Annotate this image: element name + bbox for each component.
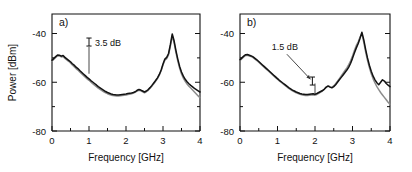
b-yticklabel: -80 [220,126,234,137]
a-yticklabel: -80 [32,126,46,137]
a-xticklabel: 1 [86,135,91,146]
panel-b: 1.5 dB 01234-40-60-80b)Frequency [GHz] [206,0,412,172]
b-xticklabel: 3 [350,135,355,146]
a-panel-letter: a) [59,16,68,28]
b-yticklabel: -40 [220,28,234,39]
a-trace-black [52,34,200,95]
panel-b-labels: 01234-40-60-80b)Frequency [GHz] [220,16,392,163]
b-xticklabel: 1 [275,135,280,146]
panel-a-ticks [52,34,200,132]
a-xticklabel: 2 [123,135,128,146]
panel-b-plot: 1.5 dB 01234-40-60-80b)Frequency [GHz] [206,0,412,172]
a-yticklabel: -40 [32,28,46,39]
a-xticklabel: 4 [197,135,202,146]
a-annotation-label: 3.5 dB [95,38,121,48]
panel-b-frame [240,14,390,131]
panel-a: 3.5 dB 01234-40-60-80a)Frequency [GHz]Po… [0,0,206,172]
a-xaxis-title: Frequency [GHz] [88,152,164,163]
panel-a-traces [52,34,200,98]
panel-a-plot: 3.5 dB 01234-40-60-80a)Frequency [GHz]Po… [0,0,206,172]
panel-b-annotation: 1.5 dB [272,42,315,93]
b-yticklabel: -60 [220,77,234,88]
figure-container: 3.5 dB 01234-40-60-80a)Frequency [GHz]Po… [0,0,412,172]
b-xticklabel: 4 [387,135,392,146]
b-panel-letter: b) [247,16,256,28]
b-arrow-line [287,54,311,79]
a-yaxis-title: Power [dBm] [7,44,18,101]
a-yticklabel: -60 [32,77,46,88]
panel-a-annotation: 3.5 dB [86,38,121,74]
b-xticklabel: 0 [237,135,242,146]
b-annotation-label: 1.5 dB [272,42,298,52]
b-xaxis-title: Frequency [GHz] [277,152,353,163]
panel-b-axes [240,14,390,131]
panel-a-axes [52,14,200,131]
panel-a-frame [52,14,200,131]
a-xticklabel: 3 [160,135,165,146]
panel-b-ticks [240,34,390,132]
b-xticklabel: 2 [312,135,317,146]
panel-b-traces [240,32,390,104]
a-trace-gray [52,36,200,98]
a-xticklabel: 0 [49,135,54,146]
